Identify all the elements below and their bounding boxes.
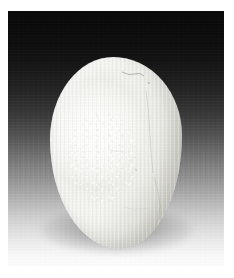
specular-highlight — [68, 111, 137, 203]
image-canvas — [0, 0, 234, 278]
stone-striation-texture — [50, 57, 182, 249]
vein-mark-lower-centre — [124, 207, 147, 209]
vein-mark-centre — [108, 149, 124, 152]
stone-vein-marks — [50, 57, 182, 249]
vein-mark-lower-right — [154, 177, 160, 229]
vein-mark-right-flank — [146, 91, 153, 173]
speck-mark-crown — [148, 82, 150, 84]
stone-body — [50, 57, 182, 249]
speck-mark-middle — [135, 169, 137, 171]
vein-mark-top-right — [122, 72, 144, 76]
stone — [50, 57, 182, 249]
photograph — [8, 11, 224, 266]
